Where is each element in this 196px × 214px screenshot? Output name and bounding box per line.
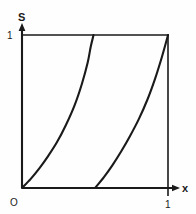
x-axis-label: x [182, 182, 189, 194]
x-axis-arrowhead-icon [172, 185, 180, 192]
x-axis [22, 185, 180, 192]
x-tick-label-1: 1 [165, 199, 171, 210]
y-axis [19, 23, 26, 188]
data-curves [22, 35, 168, 188]
curve-branch-2 [95, 35, 168, 188]
plot-frame [22, 35, 168, 188]
y-axis-label: S [18, 11, 25, 23]
y-tick-label-1: 1 [7, 30, 13, 41]
origin-label: O [10, 197, 18, 208]
y-axis-arrowhead-icon [19, 23, 26, 31]
curve-branch-1 [22, 35, 94, 188]
diagram-svg: S x 1 1 O [0, 0, 196, 214]
figure-container: S x 1 1 O [0, 0, 196, 214]
